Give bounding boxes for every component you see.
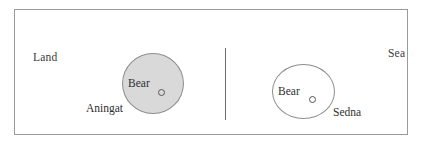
diagram-frame: Land Sea Bear Aningat Bear Sedna (14, 9, 408, 135)
zone-occupant-label-sedna: Bear (278, 85, 300, 97)
actor-dot-sedna (309, 96, 316, 103)
region-label-land: Land (33, 51, 57, 63)
zone-name-label-sedna: Sedna (333, 106, 361, 118)
actor-dot-aningat (158, 89, 165, 96)
diagram-canvas: Land Sea Bear Aningat Bear Sedna (0, 0, 423, 147)
zone-occupant-label-aningat: Bear (128, 77, 150, 89)
region-label-sea: Sea (388, 47, 405, 59)
zone-name-label-aningat: Aningat (86, 102, 123, 114)
vertical-divider-line (225, 48, 226, 120)
